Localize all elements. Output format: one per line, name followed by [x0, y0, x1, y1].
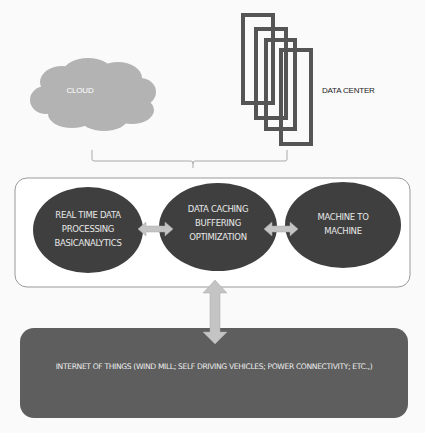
- node-m2m-line-2: MACHINE: [285, 224, 401, 238]
- iot-label: INTERNET OF THINGS (WIND MILL; SELF DRIV…: [20, 362, 408, 371]
- node-caching-line-3: OPTIMIZATION: [160, 230, 276, 244]
- data-center-label: DATA CENTER: [322, 86, 402, 95]
- node-caching-label: DATA CACHING BUFFERING OPTIMIZATION: [160, 202, 276, 244]
- node-realtime-line-1: REAL TIME DATA: [33, 208, 143, 222]
- node-realtime-label: REAL TIME DATA PROCESSING BASICANALYTICS: [33, 208, 143, 250]
- vertical-double-arrow: [203, 280, 227, 344]
- node-m2m-line-1: MACHINE TO: [285, 210, 401, 224]
- node-caching-line-2: BUFFERING: [160, 216, 276, 230]
- node-caching-line-1: DATA CACHING: [160, 202, 276, 216]
- node-realtime-line-2: PROCESSING: [33, 222, 143, 236]
- node-m2m-label: MACHINE TO MACHINE: [285, 210, 401, 238]
- node-realtime-line-3: BASICANALYTICS: [33, 236, 143, 250]
- data-center-icon: [243, 15, 311, 144]
- cloud-label: CLOUD: [50, 86, 110, 95]
- bracket-connector: [92, 150, 287, 168]
